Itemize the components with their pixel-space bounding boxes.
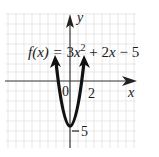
y-tick-label-neg5: 5 [81,124,88,139]
x-axis [5,76,137,86]
eq-tail: − 5 [116,44,139,60]
origin-label: 0 [62,84,69,99]
x-tick-label-2: 2 [88,86,95,101]
eq-middle: + 2 [86,44,109,60]
eq-lhs: f(x) = [28,44,66,61]
coordinate-plane: f(x) = 3x2 + 2x − 5 y x 0 2 5 [0,0,159,157]
eq-coef1: 3 [66,44,74,60]
y-axis-label: y [75,10,84,25]
graph-figure: f(x) = 3x2 + 2x − 5 y x 0 2 5 [0,0,159,157]
x-axis-label: x [127,85,135,100]
